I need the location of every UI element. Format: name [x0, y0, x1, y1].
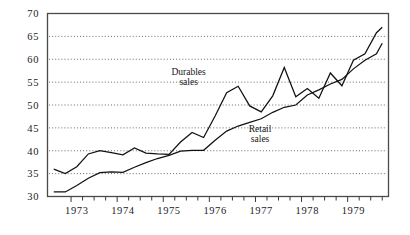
- x-axis-ticks: [71, 197, 382, 203]
- durables-sales-label-line2: sales: [179, 77, 198, 87]
- series-line-durables-sales: [54, 27, 382, 173]
- durables-sales-label: Durablessales: [171, 67, 206, 87]
- ytick-label-70: 70: [27, 8, 39, 19]
- y-axis-tick-labels: 303540455055606570: [27, 8, 39, 202]
- series-line-retail-sales: [54, 43, 382, 192]
- series-annotations: DurablessalesRetailsales: [171, 67, 271, 145]
- xtick-label-1977: 1977: [250, 205, 273, 216]
- x-axis-tick-labels: 1973197419751976197719781979: [65, 205, 365, 216]
- ytick-label-30: 30: [27, 191, 39, 202]
- ytick-label-60: 60: [27, 54, 39, 65]
- line-chart: 303540455055606570 197319741975197619771…: [0, 0, 410, 235]
- ytick-label-45: 45: [27, 123, 39, 134]
- xtick-label-1974: 1974: [111, 205, 135, 216]
- xtick-label-1979: 1979: [342, 205, 365, 216]
- series-paths: [54, 27, 382, 192]
- xtick-label-1973: 1973: [65, 205, 88, 216]
- durables-sales-label-line1: Durables: [171, 67, 206, 77]
- xtick-label-1978: 1978: [296, 205, 319, 216]
- ytick-label-55: 55: [27, 77, 39, 88]
- grid-lines: [49, 36, 387, 173]
- retail-sales-label-line1: Retail: [249, 124, 272, 134]
- xtick-label-1975: 1975: [157, 205, 180, 216]
- ytick-label-50: 50: [27, 100, 39, 111]
- retail-sales-label-line2: sales: [251, 134, 270, 144]
- ytick-label-40: 40: [27, 146, 39, 157]
- ytick-label-65: 65: [27, 31, 39, 42]
- chart-container: 303540455055606570 197319741975197619771…: [0, 0, 410, 235]
- ytick-label-35: 35: [27, 168, 39, 179]
- xtick-label-1976: 1976: [203, 205, 226, 216]
- retail-sales-label: Retailsales: [249, 124, 272, 144]
